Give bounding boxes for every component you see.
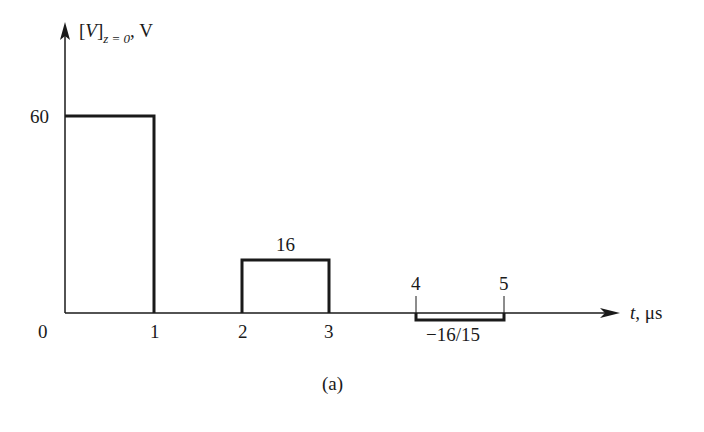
- x-axis-label: t, μs: [630, 303, 662, 322]
- ylabel-unit: , V: [130, 20, 153, 41]
- x-tick-1: 1: [150, 322, 160, 341]
- pulse-3-value: −16/15: [426, 325, 480, 344]
- ylabel-subscript: z = 0: [103, 31, 130, 46]
- pulse-2-value: 16: [276, 235, 295, 254]
- ylabel-variable: V: [85, 20, 97, 41]
- y-axis-label: [V]z = 0, V: [79, 21, 153, 40]
- pulse-1: [65, 116, 154, 313]
- x-tick-0: 0: [38, 322, 48, 341]
- pulse-2: [242, 260, 329, 313]
- waveform-plot: [0, 0, 704, 432]
- x-tick-2: 2: [238, 322, 248, 341]
- pulse-3: [416, 313, 504, 320]
- x-tick-5: 5: [499, 274, 509, 293]
- xlabel-unit: , μs: [635, 302, 662, 323]
- figure-caption: (a): [322, 374, 343, 393]
- y-tick-60: 60: [30, 107, 49, 126]
- x-tick-4: 4: [411, 274, 421, 293]
- x-tick-3: 3: [324, 322, 334, 341]
